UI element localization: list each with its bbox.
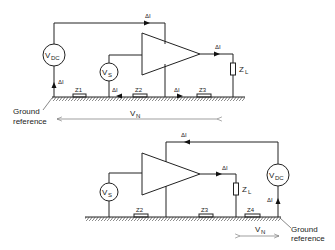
impedance-z3-bottom bbox=[199, 214, 213, 217]
svg-text:DC: DC bbox=[51, 55, 60, 61]
current-arrow-icon bbox=[52, 82, 57, 88]
svg-text:N: N bbox=[136, 113, 140, 119]
ground-plane-bottom bbox=[85, 217, 281, 221]
svg-text:ΔI: ΔI bbox=[181, 132, 187, 138]
svg-text:Z1: Z1 bbox=[75, 87, 83, 93]
current-arrow-icon bbox=[276, 198, 281, 204]
current-arrow-icon bbox=[184, 140, 190, 145]
ground-loop-diagram: V DC ΔI ΔI V S ΔI Z L bbox=[0, 0, 335, 250]
svg-text:ΔI: ΔI bbox=[222, 165, 228, 171]
svg-text:Z: Z bbox=[239, 65, 244, 74]
svg-text:L: L bbox=[248, 189, 252, 195]
current-arrow-icon bbox=[216, 172, 222, 177]
svg-text:ΔI: ΔI bbox=[174, 87, 180, 93]
svg-text:S: S bbox=[108, 72, 112, 78]
impedance-z3 bbox=[197, 94, 211, 97]
bottom-circuit: ΔI V S ΔI Z L V DC ΔI Z bbox=[85, 132, 325, 243]
svg-text:Z3: Z3 bbox=[201, 207, 209, 213]
svg-text:Z3: Z3 bbox=[199, 87, 207, 93]
impedance-z2-bottom bbox=[134, 214, 148, 217]
svg-text:L: L bbox=[245, 69, 249, 75]
vdc-source-bottom: V DC bbox=[267, 142, 289, 217]
top-circuit: V DC ΔI ΔI V S ΔI Z L bbox=[13, 13, 249, 126]
impedance-z2 bbox=[133, 94, 147, 97]
svg-text:ΔI: ΔI bbox=[267, 197, 273, 203]
svg-text:ΔI: ΔI bbox=[145, 13, 151, 19]
impedance-z4 bbox=[245, 214, 260, 217]
svg-text:reference: reference bbox=[13, 117, 47, 126]
load-resistor-bottom bbox=[234, 183, 239, 195]
impedance-z1 bbox=[73, 94, 86, 97]
svg-text:Z2: Z2 bbox=[136, 207, 144, 213]
ground-plane-top bbox=[52, 97, 245, 101]
svg-text:S: S bbox=[108, 192, 112, 198]
svg-text:ΔI: ΔI bbox=[215, 44, 221, 50]
current-arrow-icon bbox=[144, 21, 150, 26]
ground-reference-label: Ground bbox=[13, 107, 40, 116]
ground-reference-label: Ground bbox=[291, 225, 318, 234]
svg-text:ΔI: ΔI bbox=[58, 79, 64, 85]
svg-text:reference: reference bbox=[291, 234, 325, 243]
svg-text:DC: DC bbox=[275, 175, 284, 181]
svg-text:Z4: Z4 bbox=[247, 207, 255, 213]
svg-text:N: N bbox=[261, 229, 265, 235]
svg-text:ΔI: ΔI bbox=[112, 87, 118, 93]
load-resistor-top bbox=[231, 63, 236, 75]
amplifier-bottom bbox=[142, 153, 200, 195]
svg-text:Z: Z bbox=[242, 185, 247, 194]
current-arrow-icon bbox=[214, 52, 220, 57]
amplifier-top bbox=[142, 33, 200, 75]
svg-text:Z2: Z2 bbox=[135, 87, 143, 93]
